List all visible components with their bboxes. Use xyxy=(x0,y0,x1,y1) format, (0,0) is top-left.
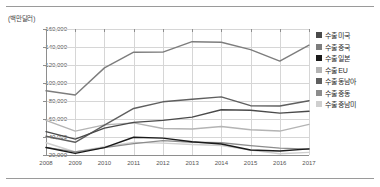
x-tick-label: 2012 xyxy=(156,160,169,166)
legend-item[interactable]: 수출 동남아 xyxy=(316,76,356,86)
legend-item[interactable]: 수출 일본 xyxy=(316,53,356,63)
chart-legend: 수출 미국수출 중국수출 일본수출 EU수출 동남아수출 중동수출 중남미 xyxy=(316,30,356,109)
legend-swatch-icon xyxy=(316,90,322,96)
legend-item[interactable]: 수출 중국 xyxy=(316,42,356,52)
x-tick-label: 2008 xyxy=(39,160,52,166)
series-line xyxy=(46,120,309,131)
x-tick-label: 2017 xyxy=(302,160,315,166)
series-line xyxy=(46,42,309,95)
x-tick-label: 2014 xyxy=(215,160,228,166)
x-tick-mark xyxy=(309,29,310,32)
plot-area xyxy=(46,29,309,155)
legend-swatch-icon xyxy=(316,44,322,50)
legend-item-label: 수출 EU xyxy=(325,65,348,75)
x-tick-label: 2011 xyxy=(127,160,140,166)
x-axis-line xyxy=(46,155,309,156)
legend-swatch-icon xyxy=(316,67,322,73)
legend-swatch-icon xyxy=(316,78,322,84)
legend-item-label: 수출 일본 xyxy=(325,53,350,63)
series-line xyxy=(46,137,309,153)
legend-item-label: 수출 미국 xyxy=(325,30,350,40)
legend-item[interactable]: 수출 중남미 xyxy=(316,99,356,109)
gridline-vertical xyxy=(309,29,310,155)
y-axis-unit-label: (백만달러) xyxy=(8,13,35,23)
series-line xyxy=(46,110,309,139)
x-tick-label: 2016 xyxy=(273,160,286,166)
legend-item[interactable]: 수출 중동 xyxy=(316,88,356,98)
legend-swatch-icon xyxy=(316,32,322,38)
bottom-divider xyxy=(6,178,374,179)
x-tick-label: 2010 xyxy=(98,160,111,166)
top-divider xyxy=(6,6,374,7)
legend-item-label: 수출 동남아 xyxy=(325,76,356,86)
y-tick-mark xyxy=(43,155,46,156)
x-tick-label: 2009 xyxy=(69,160,82,166)
legend-item[interactable]: 수출 EU xyxy=(316,65,356,75)
legend-item-label: 수출 중국 xyxy=(325,42,350,52)
chart-figure: (백만달러) 20,00040,00060,00080,000100,00012… xyxy=(0,0,380,187)
legend-item-label: 수출 중동 xyxy=(325,88,350,98)
series-lines xyxy=(46,29,309,155)
legend-swatch-icon xyxy=(316,55,322,61)
legend-item[interactable]: 수출 미국 xyxy=(316,30,356,40)
legend-item-label: 수출 중남미 xyxy=(325,99,356,109)
x-tick-label: 2015 xyxy=(244,160,257,166)
legend-swatch-icon xyxy=(316,101,322,107)
x-tick-label: 2013 xyxy=(185,160,198,166)
